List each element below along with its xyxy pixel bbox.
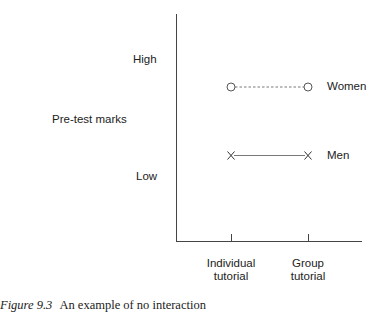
figure-text: An example of no interaction <box>59 298 205 312</box>
women-marker-group <box>304 83 312 91</box>
figure-caption-out: Figure 9.3 An example of no interaction <box>0 298 206 313</box>
legend-women: Women <box>327 80 366 92</box>
x-category-group-line2: tutorial <box>278 270 338 283</box>
x-category-individual-line1: Individual <box>201 257 261 270</box>
x-category-individual: Individual tutorial <box>201 257 261 283</box>
y-tick-low: Low <box>136 170 157 182</box>
men-marker-individual <box>228 152 235 160</box>
men-marker-group <box>305 152 312 160</box>
legend-men: Men <box>327 149 349 161</box>
figure-label: Figure 9.3 <box>0 298 52 312</box>
y-tick-high: High <box>133 53 157 65</box>
x-category-group-line1: Group <box>278 257 338 270</box>
x-category-individual-line2: tutorial <box>201 270 261 283</box>
y-axis-label: Pre-test marks <box>52 113 127 125</box>
women-marker-individual <box>227 83 235 91</box>
x-category-group: Group tutorial <box>278 257 338 283</box>
